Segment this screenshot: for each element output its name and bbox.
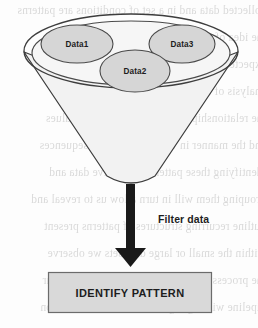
- filter-data-label: Filter data: [158, 213, 209, 225]
- data-ellipse-label-data2: Data2: [124, 67, 147, 76]
- funnel-diagram: Data1 Data3 Data2 Filter data IDENTIFY P…: [0, 0, 258, 328]
- arrow-head-icon: [115, 248, 146, 267]
- data-ellipse-label-data3: Data3: [171, 40, 194, 49]
- data-ellipse-label-data1: Data1: [66, 40, 89, 49]
- filter-arrow: [115, 184, 146, 267]
- diagram-canvas: collected data and in a set of condition…: [0, 0, 258, 328]
- identify-pattern-label: IDENTIFY PATTERN: [76, 287, 185, 299]
- arrow-shaft: [126, 184, 135, 252]
